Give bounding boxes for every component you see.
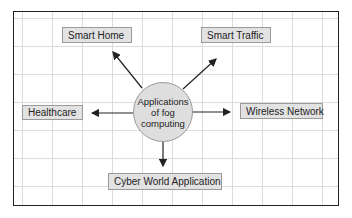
node-smart-traffic: Smart Traffic	[201, 27, 271, 43]
node-smart-home: Smart Home	[62, 27, 132, 43]
node-label: Healthcare	[28, 107, 76, 118]
arrow-to-smart-traffic	[183, 59, 216, 89]
center-label-line: Applications	[137, 96, 188, 107]
center-node-applications-of-fog-computing: Applications of fog computing	[133, 82, 193, 142]
node-label: Wireless Network	[246, 106, 324, 117]
node-wireless-network: Wireless Network	[240, 103, 323, 119]
arrow-to-smart-home	[113, 52, 142, 88]
node-healthcare: Healthcare	[22, 105, 83, 120]
node-cyber-world-application: Cyber World Application	[108, 173, 222, 190]
node-label: Cyber World Application	[114, 176, 221, 187]
center-label-line: of fog	[137, 107, 188, 118]
center-label-line: computing	[137, 118, 188, 129]
node-label: Smart Traffic	[207, 30, 264, 41]
node-label: Smart Home	[68, 30, 124, 41]
